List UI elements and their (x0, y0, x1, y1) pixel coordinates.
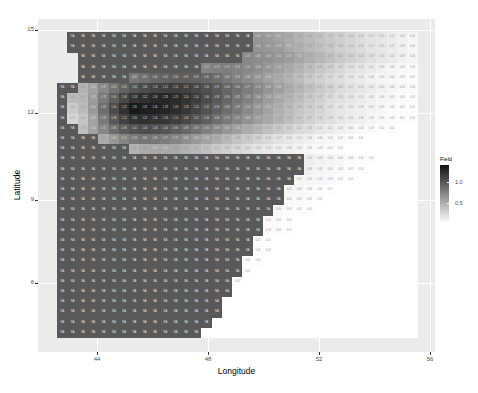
heatmap-cell: 0.08 (366, 73, 377, 84)
heatmap-cell-empty (294, 328, 305, 339)
heatmap-cell: 0.66 (253, 93, 264, 104)
heatmap-cell-na: NA (160, 154, 171, 165)
heatmap-cell-empty (407, 185, 418, 196)
heatmap-cell: 0.50 (170, 144, 181, 155)
heatmap-cell-na: NA (129, 32, 140, 43)
heatmap-cell-empty (335, 195, 346, 206)
heatmap-cell: 0.85 (139, 73, 150, 84)
heatmap-cell-empty (407, 297, 418, 308)
heatmap-cell-empty (397, 134, 408, 145)
heatmap-cell: 0.90 (222, 83, 233, 94)
heatmap-cell: 0.14 (335, 114, 346, 125)
heatmap-cell: 0.14 (376, 32, 387, 43)
heatmap-cell: 0.75 (212, 63, 223, 74)
heatmap-cell: 0.03 (407, 83, 418, 94)
heatmap-cell-na: NA (119, 42, 130, 53)
heatmap-cell-na: NA (222, 52, 233, 63)
heatmap-cell-na: NA (67, 307, 78, 318)
heatmap-cell-na: NA (222, 165, 233, 176)
heatmap-cell-na: NA (232, 246, 243, 257)
y-tick-mark (35, 30, 38, 31)
heatmap-cell-empty (304, 297, 315, 308)
heatmap-cell: 0.56 (273, 83, 284, 94)
heatmap-cell: 0.50 (139, 144, 150, 155)
heatmap-cell-empty (242, 297, 253, 308)
heatmap-cell-na: NA (78, 205, 89, 216)
heatmap-cell: 0.08 (376, 83, 387, 94)
heatmap-cell-na: NA (88, 246, 99, 257)
heatmap-cell-empty (356, 277, 367, 288)
heatmap-cell-na: NA (129, 277, 140, 288)
heatmap-cell-na: NA (139, 328, 150, 339)
heatmap-cell-empty (335, 216, 346, 227)
heatmap-cell: 0.46 (181, 144, 192, 155)
heatmap-cell-na: NA (98, 42, 109, 53)
heatmap-cell-empty (397, 277, 408, 288)
heatmap-cell-na: NA (78, 42, 89, 53)
heatmap-cell-empty (366, 328, 377, 339)
heatmap-cell-na: NA (88, 73, 99, 84)
heatmap-cell-na: NA (98, 328, 109, 339)
heatmap-cell-na: NA (222, 32, 233, 43)
heatmap-cell: 0.25 (67, 114, 78, 125)
heatmap-cell-na: NA (212, 42, 223, 53)
heatmap-cell-na: NA (212, 307, 223, 318)
heatmap-cell-empty (263, 328, 274, 339)
heatmap-cell-empty (376, 277, 387, 288)
heatmap-cell-na: NA (222, 42, 233, 53)
heatmap-cell-empty (397, 154, 408, 165)
heatmap-cell: 0.62 (253, 73, 264, 84)
heatmap-cell-na: NA (119, 73, 130, 84)
heatmap-cell: 0.60 (263, 32, 274, 43)
heatmap-cell: 0.85 (98, 103, 109, 114)
heatmap-cell-na: NA (212, 52, 223, 63)
heatmap-cell-na: NA (67, 32, 78, 43)
heatmap-cell: 0.03 (397, 73, 408, 84)
heatmap-cell-empty (387, 205, 398, 216)
heatmap-cell-empty (212, 318, 223, 329)
heatmap-cell-empty (263, 277, 274, 288)
y-tick-mark (35, 200, 38, 201)
heatmap-cell-na: NA (160, 297, 171, 308)
heatmap-cell: 0.18 (335, 73, 346, 84)
heatmap-cell: 0.01 (232, 277, 243, 288)
heatmap-cell: 0.29 (304, 103, 315, 114)
heatmap-cell: 1.28 (160, 93, 171, 104)
heatmap-cell-empty (263, 318, 274, 329)
heatmap-cell-na: NA (88, 267, 99, 278)
heatmap-cell: 0.31 (242, 134, 253, 145)
x-tick-label: 44 (87, 356, 107, 362)
heatmap-cell-na: NA (232, 42, 243, 53)
heatmap-cell-na: NA (201, 42, 212, 53)
heatmap-cell-na: NA (98, 165, 109, 176)
heatmap-cell-empty (397, 297, 408, 308)
heatmap-cell-na: NA (57, 195, 68, 206)
heatmap-cell: 0.37 (263, 124, 274, 135)
heatmap-cell-na: NA (181, 328, 192, 339)
heatmap-cell: 0.57 (253, 114, 264, 125)
heatmap-cell: 0.45 (294, 32, 305, 43)
heatmap-cell-na: NA (150, 226, 161, 237)
heatmap-cell-na: NA (160, 63, 171, 74)
heatmap-cell-empty (407, 134, 418, 145)
heatmap-cell-empty (273, 287, 284, 298)
heatmap-cell-na: NA (242, 216, 253, 227)
y-tick-mark (35, 113, 38, 114)
heatmap-cell-na: NA (160, 195, 171, 206)
heatmap-cell-empty (387, 175, 398, 186)
heatmap-cell-na: NA (67, 318, 78, 329)
heatmap-cell-empty (345, 267, 356, 278)
heatmap-cell: 1.20 (181, 93, 192, 104)
heatmap-cell-na: NA (78, 297, 89, 308)
heatmap-cell-empty (325, 236, 336, 247)
heatmap-cell: 0.78 (98, 93, 109, 104)
heatmap-cell: 0.03 (397, 93, 408, 104)
heatmap-cell-na: NA (181, 42, 192, 53)
heatmap-cell: 0.02 (273, 226, 284, 237)
heatmap-cell-empty (304, 216, 315, 227)
heatmap-cell-na: NA (201, 307, 212, 318)
heatmap-cell-empty (304, 318, 315, 329)
heatmap-cell-na: NA (78, 52, 89, 63)
heatmap-cell: 0.71 (232, 114, 243, 125)
legend-tick-mark (447, 203, 449, 204)
